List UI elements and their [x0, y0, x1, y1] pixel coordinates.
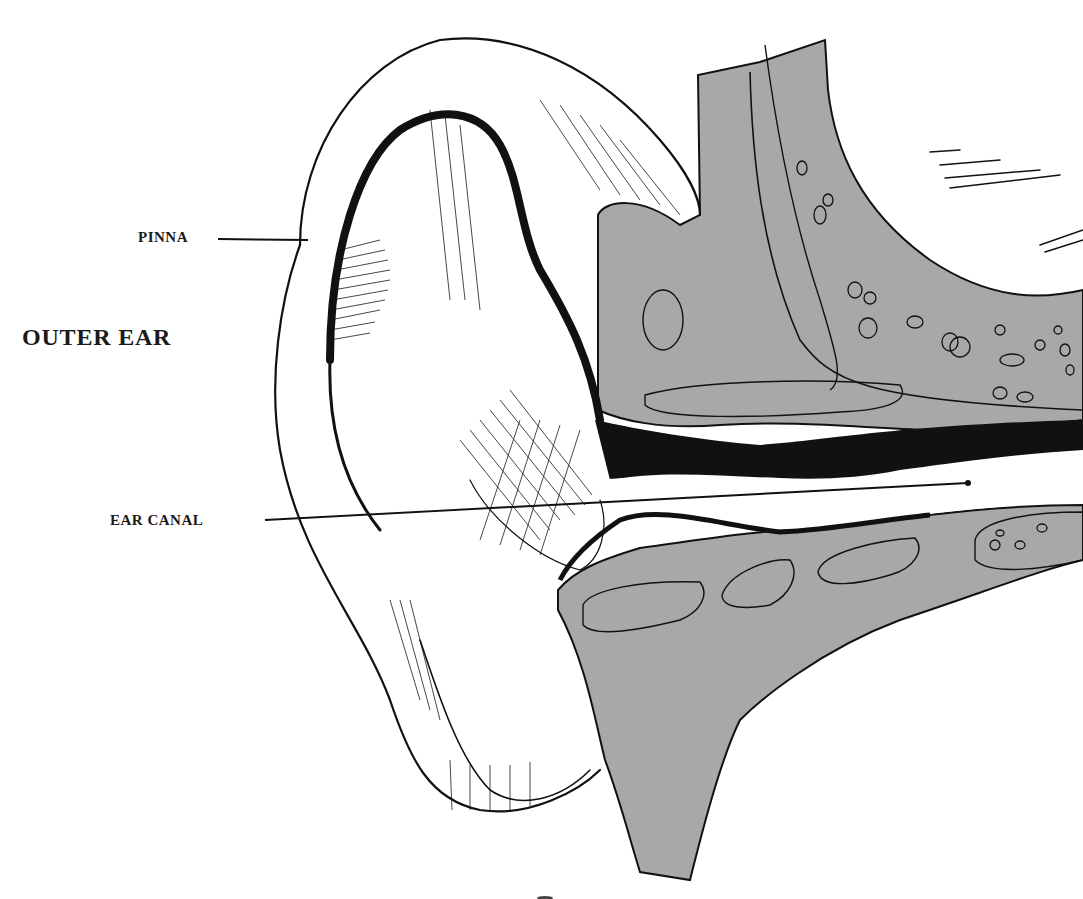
- ear-illustration: [0, 0, 1083, 899]
- temporal-bone-upper: [598, 40, 1083, 430]
- pinna-leader-line: [218, 239, 308, 240]
- pinna-label: PINNA: [138, 229, 188, 246]
- ear-canal-label: EAR CANAL: [110, 512, 203, 529]
- temporal-bone-lower: [558, 505, 1083, 880]
- outer-ear-heading: OUTER EAR: [22, 324, 171, 351]
- hair-marks: [930, 150, 1083, 252]
- outer-ear-diagram: PINNA OUTER EAR EAR CANAL: [0, 0, 1083, 899]
- ear-canal-leader-dot: [965, 480, 971, 486]
